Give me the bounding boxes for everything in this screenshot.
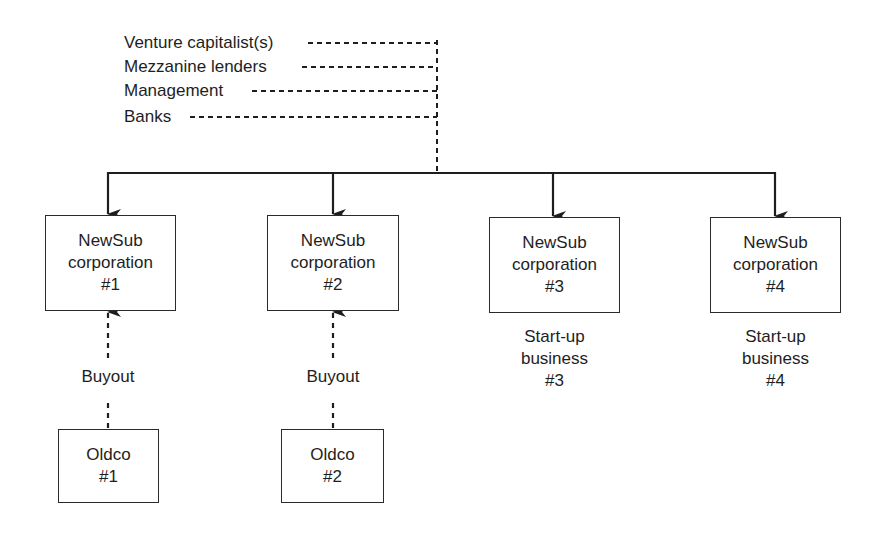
newsub-box-1: NewSub corporation #1: [45, 215, 176, 311]
oldco-2-line2: #2: [323, 466, 342, 488]
startup-label-3: Start-up business #3: [489, 326, 620, 392]
newsub-2-line2: corporation: [290, 252, 375, 274]
oldco-1-line1: Oldco: [86, 444, 130, 466]
oldco-box-1: Oldco #1: [58, 429, 159, 503]
newsub-3-line2: corporation: [512, 254, 597, 276]
newsub-4-line3: #4: [766, 276, 785, 298]
newsub-box-4: NewSub corporation #4: [710, 217, 841, 313]
oldco-box-2: Oldco #2: [281, 429, 384, 503]
startup-4-line3: #4: [766, 370, 785, 392]
startup-3-line2: business: [521, 348, 588, 370]
newsub-4-line1: NewSub: [743, 232, 807, 254]
source-label-banks: Banks: [124, 107, 171, 127]
newsub-1-line3: #1: [101, 274, 120, 296]
newsub-1-line1: NewSub: [78, 230, 142, 252]
startup-3-line1: Start-up: [524, 326, 584, 348]
newsub-1-line2: corporation: [68, 252, 153, 274]
buyout-label-1: Buyout: [58, 366, 158, 388]
oldco-1-line2: #1: [99, 466, 118, 488]
source-label-management: Management: [124, 81, 223, 101]
startup-label-4: Start-up business #4: [710, 326, 841, 392]
newsub-4-line2: corporation: [733, 254, 818, 276]
startup-3-line3: #3: [545, 370, 564, 392]
newsub-2-line1: NewSub: [301, 230, 365, 252]
newsub-2-line3: #2: [324, 274, 343, 296]
source-label-venture-capitalists: Venture capitalist(s): [124, 33, 273, 53]
startup-4-line1: Start-up: [745, 326, 805, 348]
newsub-3-line1: NewSub: [522, 232, 586, 254]
oldco-2-line1: Oldco: [310, 444, 354, 466]
buyout-label-2: Buyout: [283, 366, 383, 388]
source-label-mezzanine-lenders: Mezzanine lenders: [124, 57, 267, 77]
startup-4-line2: business: [742, 348, 809, 370]
newsub-3-line3: #3: [545, 276, 564, 298]
newsub-box-2: NewSub corporation #2: [267, 215, 399, 311]
newsub-box-3: NewSub corporation #3: [489, 217, 620, 313]
